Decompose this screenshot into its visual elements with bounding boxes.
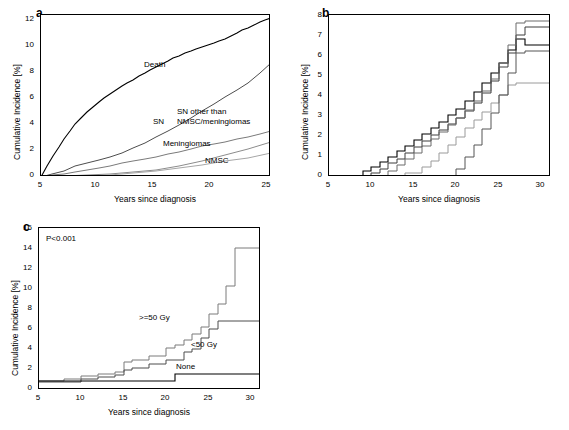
panel-c-xtick: 30 [242,393,258,402]
panel-a-ytick: 8 [24,66,34,75]
panel-a-curves [41,15,270,176]
panel-c-ytick: 2 [22,363,32,372]
panel-a-annotation-nmsc: NMSC [205,156,229,165]
panel-c-ytick: 16 [19,223,32,232]
panel-a-annotation-sn: SN [153,117,164,126]
panel-b-curves [329,15,550,176]
panel-b-ylabel: Cumulative Incidence [%] [300,64,310,160]
panel-b-ytick: 1 [312,150,322,159]
panel-a-ytick: 12 [21,14,34,23]
panel-a-xtick: 25 [258,180,274,189]
panel-a-xtick: 20 [201,180,217,189]
panel-a-ylabel: Cumulative Incidence [%] [12,64,22,160]
panel-b-ytick: 6 [312,50,322,59]
panel-a-xtick: 15 [144,180,160,189]
panel-b-plot [328,14,550,176]
panel-b-ytick: 5 [312,70,322,79]
panel-b-ytick: 2 [312,130,322,139]
figure-container: a Cumulative Incidence [%] 0 2 4 6 8 10 … [0,0,569,430]
panel-b-xtick: 30 [532,180,548,189]
panel-b-xtick: 15 [405,180,421,189]
panel-a-annotation-meningiomas: Meningiomas [163,139,211,148]
panel-b-xtick: 25 [490,180,506,189]
panel-c-ytick: 6 [22,323,32,332]
panel-b-xtick: 20 [447,180,463,189]
panel-a: a Cumulative Incidence [%] 0 2 4 6 8 10 … [0,0,290,215]
panel-b-ytick: 7 [312,30,322,39]
panel-a-annotation-sn-other-line1: SN other than [177,107,226,116]
panel-b-ytick: 0 [312,170,322,179]
panel-c-xlabel: Years since diagnosis [89,407,209,417]
panel-a-ytick: 10 [21,40,34,49]
panel-c-annotation-none: None [176,362,195,371]
panel-a-xtick: 5 [32,180,48,189]
panel-a-ytick: 4 [24,118,34,127]
panel-c-xtick: 25 [200,393,216,402]
panel-b-xtick: 10 [362,180,378,189]
panel-a-annotation-sn-other-line2: NMSC/meningiomas [177,117,250,126]
panel-c-curves [39,228,260,389]
panel-c-xtick: 20 [157,393,173,402]
panel-c-ytick: 4 [22,343,32,352]
panel-b-ytick: 4 [312,90,322,99]
panel-c-ytick: 12 [19,263,32,272]
panel-a-plot: Death SN SN other than NMSC/meningiomas … [40,14,270,176]
panel-c-annotation-ge50gy: >=50 Gy [139,313,170,322]
panel-c-xtick: 15 [115,393,131,402]
panel-c-plot: >=50 Gy <50 Gy None [38,227,260,389]
panel-c-ytick: 14 [19,243,32,252]
panel-c-xtick: 10 [72,393,88,402]
panel-c-annotation-lt50gy: <50 Gy [191,340,217,349]
panel-b-ytick: 3 [312,110,322,119]
panel-c: c Cumulative Incidence [%] 0 2 4 6 8 10 … [0,213,300,430]
panel-b-xlabel: Years since diagnosis [379,194,499,204]
panel-a-xlabel: Years since diagnosis [95,194,215,204]
panel-c-ytick: 10 [19,283,32,292]
panel-c-ylabel: Cumulative Incidence [%] [10,280,20,376]
panel-a-xtick: 10 [87,180,103,189]
panel-b: b Cumulative Incidence [%] 0 1 2 3 4 5 6… [290,0,569,215]
panel-a-ytick: 6 [24,92,34,101]
panel-c-xtick: 5 [30,393,46,402]
panel-a-annotation-death: Death [144,60,165,69]
panel-c-pvalue: P<0.001 [46,234,76,243]
panel-c-ytick: 0 [22,383,32,392]
panel-a-ytick: 2 [24,144,34,153]
panel-b-ytick: 8 [312,10,322,19]
panel-c-ytick: 8 [22,303,32,312]
panel-a-ytick: 0 [24,170,34,179]
panel-b-xtick: 5 [320,180,336,189]
